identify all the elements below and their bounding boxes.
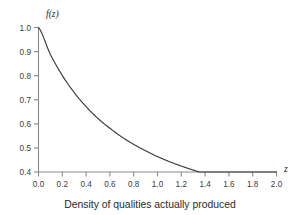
plot-area: 1.0 0.9 0.8 0.7 0.6 0.5 0.4 0.0 0.2 0.4 … <box>0 0 301 215</box>
x-axis-label: z <box>283 164 288 174</box>
y-tick-label: 0.6 <box>20 120 32 129</box>
x-tick-label: 0.0 <box>33 180 45 189</box>
y-axis-label: f(z) <box>46 9 59 20</box>
x-tick-label: 2.0 <box>271 180 283 189</box>
chart-caption: Density of qualities actually produced <box>64 199 236 210</box>
x-tick-label: 0.4 <box>80 180 92 189</box>
x-tick-label: 0.2 <box>57 180 69 189</box>
x-tick-label: 1.6 <box>223 180 235 189</box>
x-tick-label: 1.0 <box>152 180 164 189</box>
chart-figure: 1.0 0.9 0.8 0.7 0.6 0.5 0.4 0.0 0.2 0.4 … <box>0 0 301 215</box>
y-tick-label: 0.8 <box>20 72 32 81</box>
y-tick-label: 0.7 <box>20 96 32 105</box>
y-tick-label: 0.5 <box>20 144 32 153</box>
x-tick-label: 1.4 <box>199 180 211 189</box>
x-tick-label: 0.6 <box>104 180 116 189</box>
x-tick-label: 0.8 <box>128 180 140 189</box>
x-tick-label: 1.2 <box>176 180 188 189</box>
y-tick-label: 0.4 <box>20 168 32 177</box>
y-tick-label: 1.0 <box>20 24 32 33</box>
x-tick-label: 1.8 <box>247 180 259 189</box>
y-tick-label: 0.9 <box>20 48 32 57</box>
